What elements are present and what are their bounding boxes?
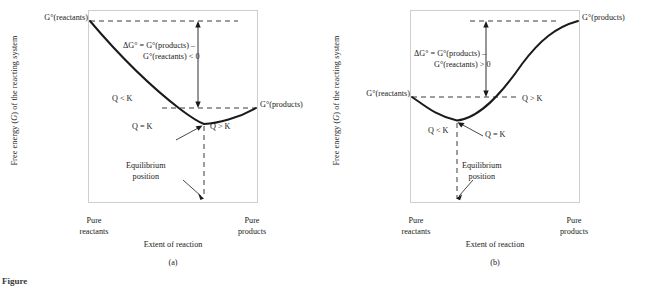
y-axis-label-a-post: ) of the reacting system [10, 35, 19, 114]
q-equals-k-pointer-b [461, 124, 483, 136]
y-axis-label-b-pre: Free energy ( [332, 121, 341, 166]
y-axis-label-b-var: G [332, 115, 341, 121]
delta-g-equation-a: ΔG° = G°(products) – G°(reactants) < 0 [123, 40, 200, 62]
x-tick-pure-reactants-a-line1: Pure [86, 216, 101, 225]
delta-g-equation-a-line1: ΔG° = G°(products) – [123, 41, 195, 50]
x-tick-pure-reactants-b: Pure reactants [386, 216, 446, 237]
x-tick-pure-reactants-a-line2: reactants [79, 227, 108, 236]
panel-b: Free energy (G) of the reacting system G… [322, 0, 644, 283]
label-q-greater-than-k-b: Q > K [522, 94, 543, 104]
delta-g-arrowhead-up-a [195, 21, 200, 28]
label-g-reactants-a: G°(reactants) [0, 13, 88, 23]
delta-g-equation-b-line1: ΔG° = G°(products) – [414, 49, 486, 58]
label-q-greater-than-k-a: Q > K [210, 122, 231, 132]
x-tick-pure-reactants-b-line1: Pure [408, 216, 423, 225]
delta-g-equation-b: ΔG° = G°(products) – G°(reactants) > 0 [414, 48, 491, 70]
equilibrium-position-label-a-line2: position [133, 172, 159, 181]
delta-g-arrowhead-down-b [483, 91, 488, 98]
x-tick-pure-products-b-line2: products [560, 227, 588, 236]
delta-g-arrowhead-up-b [483, 21, 488, 28]
plot-a-graphics [88, 10, 258, 203]
label-q-less-than-k-a: Q < K [112, 94, 133, 104]
x-axis-label-a: Extent of reaction [113, 240, 233, 251]
x-tick-pure-products-a-line2: products [238, 227, 266, 236]
y-axis-label-a-pre: Free energy ( [10, 121, 19, 166]
equilibrium-position-label-b-line2: position [469, 172, 495, 181]
equilibrium-arrowhead-a [198, 194, 204, 200]
x-tick-pure-products-a-line1: Pure [244, 216, 259, 225]
equilibrium-position-label-a: Equilibrium position [126, 161, 166, 182]
q-equals-k-arrowhead-a [196, 126, 203, 131]
q-equals-k-arrowhead-b [458, 122, 465, 127]
equilibrium-pointer-b [459, 180, 473, 196]
free-energy-curve-a [90, 21, 256, 124]
label-g-products-a: G°(products) [260, 100, 303, 110]
label-q-equals-k-b: Q = K [485, 130, 506, 140]
x-tick-pure-reactants-a: Pure reactants [64, 216, 124, 237]
x-tick-pure-reactants-b-line2: reactants [401, 227, 430, 236]
label-g-reactants-b: G°(reactants) [316, 89, 410, 99]
y-axis-label-b-post: ) of the reacting system [332, 35, 341, 114]
equilibrium-position-label-b: Equilibrium position [462, 161, 502, 182]
y-axis-label-a: Free energy (G) of the reacting system [10, 1, 19, 201]
x-tick-pure-products-a: Pure products [222, 216, 282, 237]
x-tick-pure-products-b: Pure products [544, 216, 604, 237]
label-q-equals-k-a: Q = K [132, 122, 153, 132]
delta-g-equation-b-line2: G°(reactants) > 0 [414, 59, 491, 70]
figure-caption: Figure [2, 276, 27, 286]
panel-caption-a: (a) [153, 258, 193, 267]
label-q-less-than-k-b: Q < K [428, 126, 449, 136]
y-axis-label-a-var: G [10, 115, 19, 121]
free-energy-curve-b [412, 21, 578, 121]
q-equals-k-pointer-a [176, 127, 200, 140]
equilibrium-position-label-a-line1: Equilibrium [126, 161, 166, 170]
delta-g-equation-a-line2: G°(reactants) < 0 [123, 51, 200, 62]
x-axis-label-b: Extent of reaction [435, 240, 555, 251]
delta-g-arrowhead-down-a [195, 102, 200, 109]
label-g-products-b: G°(products) [582, 13, 625, 23]
equilibrium-position-label-b-line1: Equilibrium [462, 161, 502, 170]
y-axis-label-b: Free energy (G) of the reacting system [332, 1, 341, 201]
x-tick-pure-products-b-line1: Pure [566, 216, 581, 225]
equilibrium-pointer-a [183, 180, 201, 196]
panel-a: Free energy (G) of the reacting system G… [0, 0, 322, 283]
panel-caption-b: (b) [475, 258, 515, 267]
